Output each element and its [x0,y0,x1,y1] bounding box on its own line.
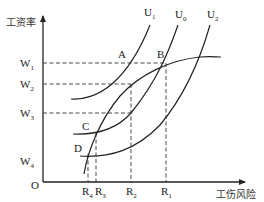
u0-label: U0 [175,8,187,23]
w3-label: W3 [20,107,34,122]
point-a-label: A [118,48,126,60]
y-axis-label: 工资率 [6,16,36,28]
indifference-curve-u2 [80,25,210,156]
w2-label: W2 [20,78,34,93]
w1-label: W1 [20,57,34,72]
r4-label: R4 [82,185,93,200]
diagram-canvas: 工资率 工伤风险 O W1 W2 W3 W4 R4 R3 R2 R1 A B C… [0,0,264,202]
r1-label: R1 [161,185,172,200]
u2-label: U2 [207,8,219,23]
indifference-curve-u1 [71,25,150,99]
w4-label: W4 [20,155,34,170]
point-c-label: C [82,120,89,132]
point-b-label: B [157,48,164,60]
x-axis-label: 工伤风险 [216,188,256,200]
r3-label: R3 [95,185,106,200]
r2-label: R2 [126,185,137,200]
point-d-label: D [74,142,82,154]
origin-label: O [31,179,39,191]
u1-label: U1 [144,6,156,21]
indifference-curve-u0 [73,25,178,134]
offer-curve [84,57,221,174]
